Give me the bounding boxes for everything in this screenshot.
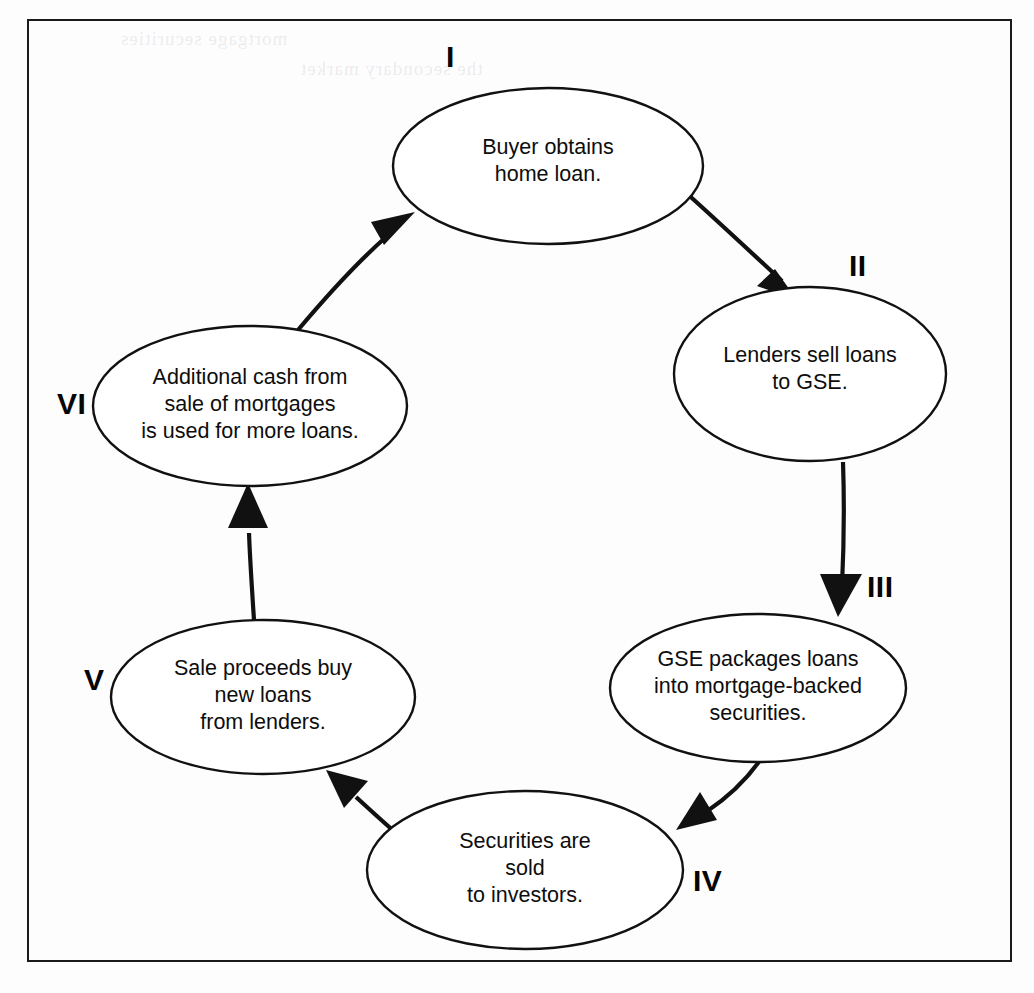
step-numeral-5: V: [84, 663, 105, 697]
edge-node6-to-node1-line: [298, 237, 386, 330]
edge-node1-to-node2: [683, 190, 797, 300]
node-ellipse-3[interactable]: [610, 614, 906, 762]
edge-node2-to-node3-line: [842, 462, 844, 586]
step-numeral-2: II: [849, 249, 867, 283]
edge-node3-to-node4-arrowhead: [676, 792, 717, 830]
edge-node6-to-node1-arrowhead: [371, 212, 415, 245]
edge-node2-to-node3-arrowhead: [820, 574, 862, 617]
step-numeral-6: VI: [57, 387, 86, 421]
node-ellipse-6[interactable]: [93, 326, 407, 486]
step-numeral-1: I: [446, 40, 455, 74]
edge-node2-to-node3: [820, 462, 862, 617]
step-numeral-3: III: [867, 570, 894, 604]
edge-node1-to-node2-line: [683, 190, 782, 281]
edge-node5-to-node6-line: [249, 533, 254, 620]
node-ellipse-5[interactable]: [111, 620, 415, 774]
edge-node6-to-node1: [298, 212, 415, 330]
node-ellipse-2[interactable]: [674, 287, 946, 461]
edge-node5-to-node6-arrowhead: [228, 483, 268, 528]
node-ellipse-1[interactable]: [393, 88, 703, 244]
edge-node3-to-node4: [676, 753, 765, 830]
node-ellipse-4[interactable]: [367, 791, 683, 949]
step-numeral-4: IV: [693, 864, 722, 898]
edge-node5-to-node6: [228, 483, 268, 620]
figure-page: mortgage securities the secondary market…: [0, 0, 1034, 993]
cycle-diagram-canvas: [0, 0, 1034, 993]
edge-node4-to-node5: [326, 770, 396, 833]
